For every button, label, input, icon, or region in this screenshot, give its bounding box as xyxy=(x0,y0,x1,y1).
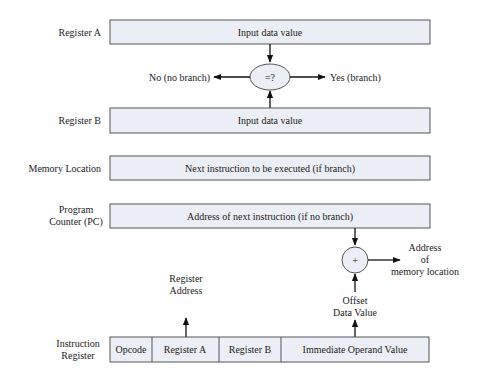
datapath-diagram: Register A Input data value =? No (no br… xyxy=(0,0,483,384)
register-address-label-2: Address xyxy=(170,285,203,296)
adder-output-label-2: of xyxy=(421,254,430,265)
adder-symbol: + xyxy=(352,255,358,266)
program-counter-label-1: Program xyxy=(59,204,94,215)
instruction-register-label-1: Instruction xyxy=(56,338,99,349)
adder-output-label-3: memory location xyxy=(391,266,459,277)
field-register-a: Register A xyxy=(164,344,207,355)
register-b-content: Input data value xyxy=(238,115,303,126)
field-opcode: Opcode xyxy=(115,344,147,355)
memory-location-content: Next instruction to be executed (if bran… xyxy=(185,163,355,175)
program-counter-content: Address of next instruction (if no branc… xyxy=(187,211,353,223)
register-address-label-1: Register xyxy=(169,273,203,284)
register-a-label: Register A xyxy=(59,27,102,38)
instruction-register-label-2: Register xyxy=(61,350,95,361)
program-counter-label-2: Counter (PC) xyxy=(49,216,103,228)
field-immediate-operand: Immediate Operand Value xyxy=(303,344,408,355)
yes-branch-label: Yes (branch) xyxy=(330,72,381,84)
comparator-symbol: =? xyxy=(265,72,276,83)
register-a-content: Input data value xyxy=(238,27,303,38)
register-b-label: Register B xyxy=(59,115,102,126)
memory-location-label: Memory Location xyxy=(29,163,101,174)
offset-label-2: Data Value xyxy=(333,307,378,318)
field-register-b: Register B xyxy=(229,344,272,355)
no-branch-label: No (no branch) xyxy=(149,72,210,84)
adder-output-label-1: Address xyxy=(409,242,442,253)
offset-label-1: Offset xyxy=(343,295,368,306)
